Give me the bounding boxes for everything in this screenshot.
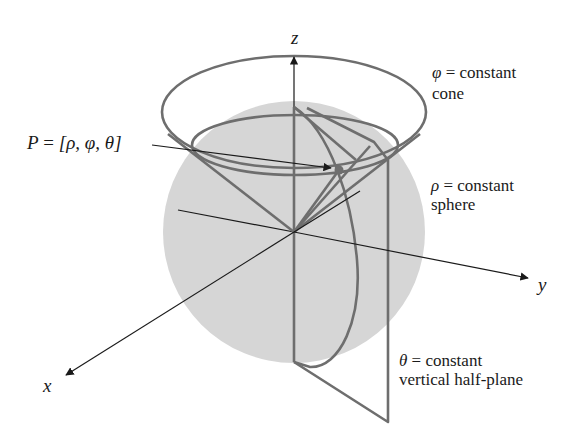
theta-symbol: θ (399, 351, 407, 370)
cone-equation: = constant (446, 63, 517, 82)
half-plane-name: vertical half-plane (399, 371, 523, 388)
sphere-annotation: ρ = constant sphere (431, 177, 514, 213)
y-axis-label: y (538, 275, 546, 294)
phi-symbol: φ (432, 63, 441, 82)
cone-name: cone (432, 85, 516, 102)
point-p-equals: = (43, 132, 54, 153)
point-p-label: P = [ρ, φ, θ] (27, 133, 122, 152)
sphere-name: sphere (431, 196, 514, 213)
z-axis-label: z (291, 28, 298, 47)
point-p-symbol: P (27, 132, 39, 153)
rho-symbol: ρ (431, 176, 439, 195)
sphere-equation: = constant (443, 176, 514, 195)
half-plane-annotation: θ = constant vertical half-plane (399, 352, 523, 388)
point-p-coordinates: [ρ, φ, θ] (59, 132, 122, 153)
point-p-dot (335, 166, 344, 175)
cone-annotation: φ = constant cone (432, 64, 516, 102)
half-plane-equation: = constant (412, 351, 483, 370)
x-axis-label: x (43, 376, 51, 395)
